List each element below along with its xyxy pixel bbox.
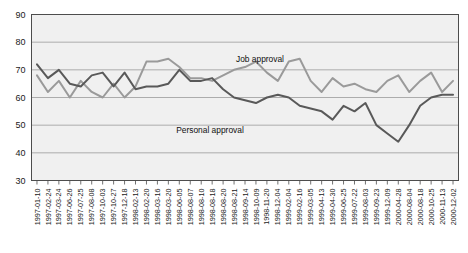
- x-tick-label-1997-02-24: 1997-02-24: [44, 189, 53, 226]
- x-tick-label-1997-03-24: 1997-03-24: [54, 189, 63, 226]
- x-tick-label-1998-06-05: 1998-06-05: [175, 189, 184, 226]
- x-tick-label-1998-08-20: 1998-08-20: [219, 189, 228, 226]
- x-tick-label-1999-12-09: 1999-12-09: [383, 189, 392, 226]
- x-tick-label-2000-04-28: 2000-04-28: [394, 189, 403, 226]
- x-tick-label-1998-08-10: 1998-08-10: [197, 189, 206, 226]
- chart-container: 90807060504030 1997-01-101997-02-241997-…: [0, 0, 468, 253]
- x-tick-label-1999-04-30: 1999-04-30: [328, 189, 337, 226]
- y-axis-tick-labels: 90807060504030: [15, 10, 25, 186]
- x-tick-label-1999-08-03: 1999-08-03: [361, 189, 370, 226]
- x-tick-label-2000-08-18: 2000-08-18: [416, 189, 425, 226]
- x-tick-label-1998-08-18: 1998-08-18: [208, 189, 217, 226]
- x-tick-label-1998-03-20: 1998-03-20: [164, 189, 173, 226]
- x-tick-label-1999-02-04: 1999-02-04: [284, 189, 293, 226]
- x-tick-label-1997-10-03: 1997-10-03: [98, 189, 107, 226]
- x-tick-label-1999-04-13: 1999-04-13: [317, 189, 326, 226]
- x-axis-tick-marks: [37, 181, 453, 185]
- x-tick-label-1999-06-25: 1999-06-25: [339, 189, 348, 226]
- x-tick-label-1997-06-26: 1997-06-26: [65, 189, 74, 226]
- y-tick-label-90: 90: [15, 10, 25, 20]
- x-tick-label-1999-02-16: 1999-02-16: [295, 189, 304, 226]
- x-tick-label-1998-11-20: 1998-11-20: [262, 189, 271, 225]
- x-tick-label-2000-08-04: 2000-08-04: [405, 189, 414, 226]
- x-tick-label-1998-12-04: 1998-12-04: [273, 189, 282, 226]
- x-axis-tick-labels: 1997-01-101997-02-241997-03-241997-06-26…: [33, 189, 458, 226]
- x-tick-label-1999-09-23: 1999-09-23: [372, 189, 381, 226]
- y-tick-label-40: 40: [15, 148, 25, 158]
- x-tick-label-2000-10-25: 2000-10-25: [427, 189, 436, 226]
- x-tick-label-1998-03-16: 1998-03-16: [153, 189, 162, 226]
- x-tick-label-1997-10-27: 1997-10-27: [109, 189, 118, 226]
- x-tick-label-1997-07-25: 1997-07-25: [76, 189, 85, 226]
- y-tick-label-80: 80: [15, 37, 25, 47]
- x-tick-label-2000-12-02: 2000-12-02: [449, 189, 458, 226]
- x-tick-label-2000-11-13: 2000-11-13: [438, 189, 447, 225]
- x-tick-label-1998-02-20: 1998-02-20: [142, 189, 151, 226]
- y-tick-label-30: 30: [15, 176, 25, 186]
- x-tick-label-1998-08-21: 1998-08-21: [230, 189, 239, 226]
- x-tick-label-1999-07-22: 1999-07-22: [350, 189, 359, 226]
- x-tick-label-1997-08-08: 1997-08-08: [87, 189, 96, 226]
- y-tick-label-50: 50: [15, 120, 25, 130]
- x-tick-label-1998-02-13: 1998-02-13: [131, 189, 140, 226]
- series-label-personal-approval: Personal approval: [176, 125, 244, 135]
- x-tick-label-1998-08-07: 1998-08-07: [186, 189, 195, 226]
- x-tick-label-1999-03-05: 1999-03-05: [306, 189, 315, 226]
- x-tick-label-1998-10-09: 1998-10-09: [252, 189, 261, 226]
- x-tick-label-1997-12-18: 1997-12-18: [120, 189, 129, 226]
- y-tick-label-70: 70: [15, 65, 25, 75]
- line-chart: 90807060504030 1997-01-101997-02-241997-…: [0, 0, 468, 253]
- series-label-job-approval: Job approval: [236, 54, 284, 64]
- x-tick-label-1997-01-10: 1997-01-10: [33, 189, 42, 226]
- x-tick-label-1998-09-14: 1998-09-14: [241, 189, 250, 226]
- y-tick-label-60: 60: [15, 93, 25, 103]
